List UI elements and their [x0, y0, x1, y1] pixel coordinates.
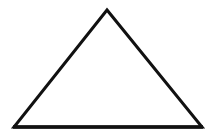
- diagram-canvas: [0, 0, 214, 138]
- triangle-diagram: [0, 0, 214, 138]
- triangle-shape: [14, 10, 202, 127]
